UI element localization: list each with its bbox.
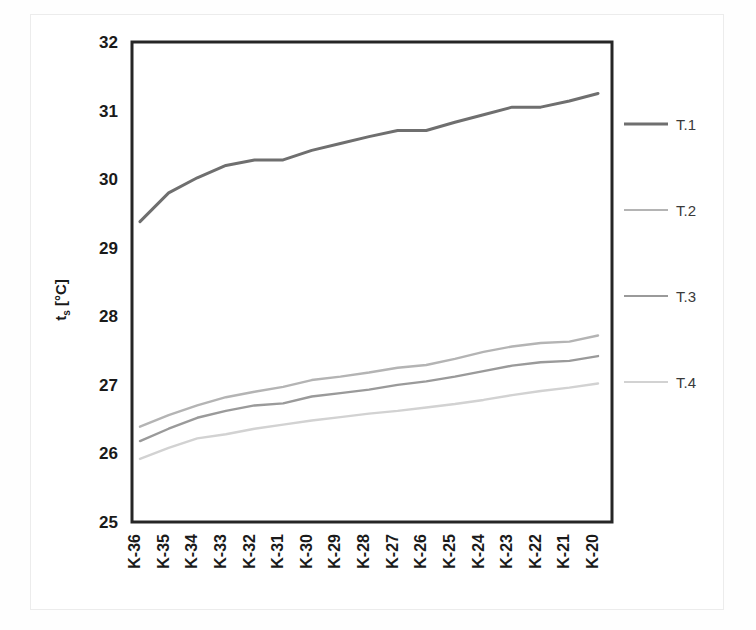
x-axis-tick-labels: K-36K-35K-34K-33K-32K-31K-30K-29K-28K-27… xyxy=(126,534,601,569)
legend-label-t-4: T.4 xyxy=(676,374,696,391)
x-tick-label: K-32 xyxy=(241,534,258,569)
y-axis-title: ts [°C] xyxy=(52,279,72,321)
x-tick-label: K-23 xyxy=(498,534,515,569)
series-line-t-1 xyxy=(140,93,598,221)
legend-label-t-2: T.2 xyxy=(676,202,696,219)
x-tick-label: K-34 xyxy=(183,534,200,569)
y-axis-tick-labels: 2526272829303132 xyxy=(99,33,118,532)
x-tick-label: K-31 xyxy=(269,534,286,569)
x-tick-label: K-35 xyxy=(155,534,172,569)
y-tick-label: 29 xyxy=(99,239,118,258)
y-axis-title-unit: [°C] xyxy=(52,279,69,310)
series-line-t-4 xyxy=(140,383,598,458)
line-chart: 2526272829303132 K-36K-35K-34K-33K-32K-3… xyxy=(0,0,756,630)
y-tick-label: 31 xyxy=(99,102,118,121)
plot-area-border xyxy=(132,42,612,522)
x-tick-label: K-22 xyxy=(527,534,544,569)
x-tick-label: K-20 xyxy=(584,534,601,569)
y-tick-label: 32 xyxy=(99,33,118,52)
legend-label-t-1: T.1 xyxy=(676,116,696,133)
x-tick-label: K-25 xyxy=(441,534,458,569)
y-tick-label: 25 xyxy=(99,513,118,532)
x-tick-label: K-21 xyxy=(555,534,572,569)
y-tick-label: 30 xyxy=(99,170,118,189)
y-tick-label: 26 xyxy=(99,444,118,463)
x-tick-label: K-36 xyxy=(126,534,143,569)
series-lines xyxy=(140,93,598,458)
legend: T.1T.2T.3T.4 xyxy=(624,116,696,391)
figure-canvas: 2526272829303132 K-36K-35K-34K-33K-32K-3… xyxy=(0,0,756,630)
y-tick-label: 27 xyxy=(99,376,118,395)
series-line-t-3 xyxy=(140,356,598,441)
x-tick-label: K-33 xyxy=(212,534,229,569)
svg-text:ts [°C]: ts [°C] xyxy=(52,279,72,321)
x-tick-label: K-29 xyxy=(326,534,343,569)
x-tick-label: K-28 xyxy=(355,534,372,569)
y-tick-label: 28 xyxy=(99,307,118,326)
x-tick-label: K-27 xyxy=(384,534,401,569)
x-tick-label: K-24 xyxy=(470,534,487,569)
x-tick-label: K-26 xyxy=(412,534,429,569)
legend-label-t-3: T.3 xyxy=(676,288,696,305)
x-tick-label: K-30 xyxy=(298,534,315,569)
